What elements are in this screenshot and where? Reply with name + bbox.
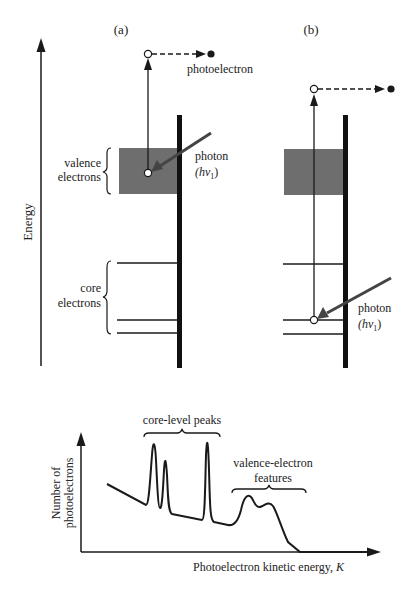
photon-energy-label: (hv1) [195, 165, 218, 181]
photoelectron-dot [207, 50, 214, 57]
photoelectron-spectrum: Number of photoelectrons Photoelectron k… [49, 413, 381, 574]
arrow-up-icon [144, 58, 152, 70]
valence-features-brace [232, 485, 306, 493]
panel-a-label: (a) [114, 22, 128, 37]
valence-label-line1: valence [64, 156, 101, 170]
photoelectron-label: photoelectron [187, 62, 253, 76]
panel-a: (a) photoelectron photon (hv1) valence e… [58, 22, 253, 368]
valence-features-label-line1: valence-electron [233, 456, 312, 470]
panel-b: (b) photon (hv1) [283, 22, 395, 368]
photon-energy-label: (hv1) [358, 317, 381, 333]
photon-label: photon [358, 301, 391, 315]
valence-features-label-line2: features [254, 471, 292, 485]
arrow-right-icon [375, 85, 385, 93]
valence-brace [103, 148, 111, 194]
core-peaks-brace [144, 429, 220, 437]
photoemission-diagram: Energy (a) photoelectron photon (hv1) va… [0, 0, 417, 589]
arrow-right-icon [196, 50, 206, 58]
excited-electron-open-circle [144, 50, 151, 57]
energy-axis: Energy [20, 38, 46, 366]
excited-electron-open-circle [310, 85, 317, 92]
arrow-up-icon [77, 432, 86, 446]
valence-hole-open-circle [144, 169, 151, 176]
core-brace [103, 261, 111, 334]
spectrum-ylabel-line1: Number of [49, 467, 63, 519]
photon-label: photon [195, 149, 228, 163]
valence-label-line2: electrons [58, 170, 102, 184]
core-peaks-label: core-level peaks [143, 413, 222, 427]
energy-axis-label: Energy [20, 203, 35, 241]
core-label-line1: core [80, 281, 101, 295]
spectrum-xlabel: Photoelectron kinetic energy, K [193, 560, 345, 574]
panel-b-label: (b) [303, 22, 318, 37]
core-hole-open-circle [310, 316, 317, 323]
arrow-up-icon [37, 38, 46, 52]
surface-barrier [343, 115, 348, 368]
photoelectron-dot [387, 85, 394, 92]
arrow-up-icon [310, 94, 318, 106]
core-label-line2: electrons [58, 296, 102, 310]
spectrum-ylabel-line2: photoelectrons [62, 457, 76, 528]
